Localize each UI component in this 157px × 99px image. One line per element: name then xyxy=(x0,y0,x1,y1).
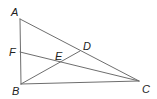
label-point-f: F xyxy=(9,46,17,58)
segment-bc xyxy=(21,81,139,84)
segment-bd xyxy=(21,51,80,84)
segment-ab xyxy=(20,19,21,84)
label-point-a: A xyxy=(10,6,18,18)
label-point-c: C xyxy=(142,83,150,95)
label-point-e: E xyxy=(55,50,63,62)
label-point-d: D xyxy=(83,40,91,52)
segment-fc xyxy=(20,52,139,81)
label-point-b: B xyxy=(12,85,19,97)
segment-ac xyxy=(20,19,139,81)
geometry-diagram: A B C D E F xyxy=(0,0,157,99)
